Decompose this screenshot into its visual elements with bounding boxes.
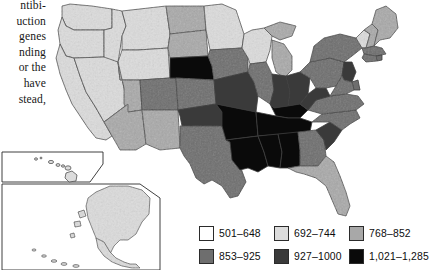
legend-item[interactable]: 853–925 [199,249,274,264]
state-MN [204,4,244,50]
legend-swatch-icon [349,226,364,241]
state-HI [35,157,78,182]
legend-label: 1,021–1,285 [369,250,429,263]
legend-item[interactable]: 501–648 [199,226,274,241]
state-NE [170,56,214,80]
legend-item[interactable]: 768–852 [349,226,427,241]
state-WY [118,48,170,80]
state-NY [310,34,362,62]
hawaii-inset-frame [2,152,103,182]
legend-swatch-icon [199,226,214,241]
state-CO [140,78,178,110]
state-ND [166,6,206,34]
legend-row: 501–648 692–744 768–852 [199,226,427,241]
legend-label: 927–1000 [294,250,342,263]
legend-swatch-icon [199,249,214,264]
state-WA [62,4,112,30]
legend-item[interactable]: 1,021–1,285 [349,249,427,264]
legend-item[interactable]: 927–1000 [274,249,349,264]
legend-swatch-icon [274,226,289,241]
legend-label: 692–744 [294,227,336,240]
legend-swatch-icon [349,249,364,264]
state-ME [372,6,398,46]
legend-label: 768–852 [369,227,411,240]
legend-label: 501–648 [219,227,261,240]
state-AL [278,132,300,168]
legend-item[interactable]: 692–744 [274,226,349,241]
state-MT [122,6,170,50]
legend-row: 853–925 927–1000 1,021–1,285 [199,249,427,264]
legend-label: 853–925 [219,250,261,263]
choropleth-legend: 501–648 692–744 768–852 853–925 927–1000… [199,226,427,270]
state-NM [142,110,180,150]
state-AK [32,186,150,268]
state-NJ [342,62,356,82]
state-SD [168,30,208,58]
legend-swatch-icon [274,249,289,264]
